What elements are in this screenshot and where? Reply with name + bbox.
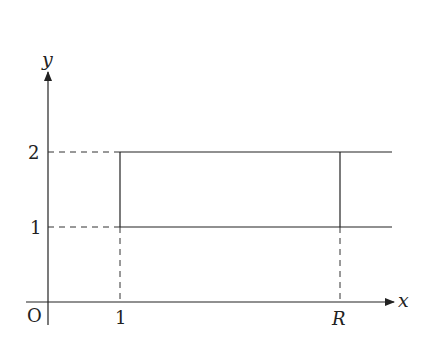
- x-axis-label: x: [398, 289, 409, 311]
- diagram-canvas: y x O 2 1 1 R: [0, 0, 438, 350]
- x-tick-R: R: [331, 308, 346, 329]
- origin-label: O: [27, 305, 42, 326]
- x-tick-1: 1: [115, 307, 126, 328]
- y-axis-label: y: [41, 48, 53, 70]
- y-tick-1: 1: [30, 217, 41, 238]
- y-tick-2: 2: [28, 142, 39, 163]
